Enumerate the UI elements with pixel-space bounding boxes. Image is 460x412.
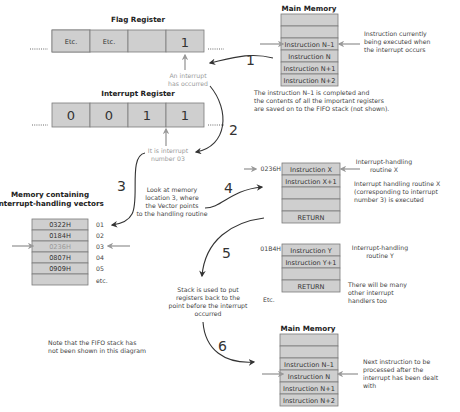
vector-memory-title-1: Memory containing xyxy=(11,190,89,199)
vec-index-5: etc. xyxy=(96,277,108,284)
routine-y: 01B4H Instruction Y Instruction Y+1 RETU… xyxy=(260,244,408,304)
flag-cell-2-box xyxy=(128,30,166,52)
fifo-note-1: Note that the FIFO stack has xyxy=(48,339,136,346)
main-memory-top: Main Memory Instruction N–1 Instruction … xyxy=(253,4,430,112)
step1-arrow xyxy=(210,55,273,63)
int-cell-1: 0 xyxy=(105,108,113,123)
int-annotation-1: It is interrupt xyxy=(148,147,189,155)
flag-register-title: Flag Register xyxy=(111,15,165,24)
routine-x-label-2: routine X xyxy=(370,166,399,173)
routine-x: 0236H Instruction X Instruction X+1 RETU… xyxy=(244,158,441,223)
vec-cell-0: 0322H xyxy=(49,221,71,229)
rx-cell-0: Instruction X xyxy=(290,166,332,174)
flag-register: Flag Register Etc. Etc. 1 An interrupt h… xyxy=(30,15,224,87)
vec-index-2: 03 xyxy=(96,243,104,250)
routine-x-annotation-2: (corresponding to interrupt xyxy=(354,188,438,196)
main-memory-bottom-title: Main Memory xyxy=(281,324,336,333)
routine-etc-label: Etc. xyxy=(263,296,275,303)
vec-cell-4: 0909H xyxy=(49,265,71,273)
int-cell-3: 1 xyxy=(181,108,189,123)
stack-note-3: point before the interrupt xyxy=(169,302,248,310)
mm-bot-cell-5: Instruction N+2 xyxy=(283,397,335,405)
step-6-number: 6 xyxy=(218,338,227,354)
step4-arrow xyxy=(205,187,262,208)
step5-arrow xyxy=(202,218,264,276)
mm-top-annotation-3: the interrupt occurs xyxy=(364,46,426,54)
mm-top-cell-5: Instruction N+2 xyxy=(283,77,335,85)
vector-annotation-2: location 3, where xyxy=(145,194,199,201)
vec-index-1: 02 xyxy=(96,232,104,239)
int-cell-2: 1 xyxy=(143,108,151,123)
routine-y-label-1: Interrupt-handling xyxy=(352,244,408,252)
mm-top-cell-2: Instruction N–1 xyxy=(285,41,335,49)
stack-note-1: Stack is used to put xyxy=(177,286,239,294)
interrupt-diagram: Flag Register Etc. Etc. 1 An interrupt h… xyxy=(0,0,460,412)
ry-cell-2-box xyxy=(282,268,340,280)
int-annotation-2: number 03 xyxy=(151,155,185,162)
mm-top-cell-3: Instruction N xyxy=(288,53,330,61)
routine-y-label-2: routine Y xyxy=(366,252,394,259)
routine-x-annotation-3: number 3) is executed xyxy=(354,196,424,203)
routine-x-annotation-1: Interrupt handling routine X xyxy=(354,180,441,188)
routine-x-address: 0236H xyxy=(261,165,282,172)
rx-cell-3-box xyxy=(282,199,340,211)
stack-note: Stack is used to put registers back to t… xyxy=(169,286,248,317)
routine-y-annotation-1: There will be many xyxy=(347,281,407,289)
mm-bot-annotation-1: Next instruction to be xyxy=(363,358,430,365)
vec-index-4: 05 xyxy=(96,265,104,272)
mm-top-annotation-2: being executed when xyxy=(364,38,430,46)
mm-bot-cell-1-box xyxy=(280,346,338,358)
flag-cell-1: Etc. xyxy=(103,38,115,46)
mm-top-cell-0-box xyxy=(281,14,338,26)
mm-bot-cell-3: Instruction N xyxy=(288,373,330,381)
mm-bot-annotation-4: with xyxy=(363,382,376,389)
vec-cell-3: 0807H xyxy=(49,254,71,262)
stack-note-4: occurred xyxy=(194,310,221,317)
step-4-number: 4 xyxy=(224,180,233,196)
flag-cell-0: Etc. xyxy=(65,38,77,46)
mm-bot-cell-4: Instruction N+1 xyxy=(283,385,335,393)
rx-cell-2-box xyxy=(282,187,340,199)
step-1-number: 1 xyxy=(246,52,255,68)
mm-top-cell-1-box xyxy=(281,26,338,38)
mm-bot-cell-2: Instruction N–1 xyxy=(284,361,334,369)
vec-index-0: 01 xyxy=(96,221,104,228)
main-memory-top-title: Main Memory xyxy=(282,4,337,13)
mm-bot-cell-0-box xyxy=(280,334,338,346)
step-3-number: 3 xyxy=(117,178,126,194)
step-2-number: 2 xyxy=(229,122,238,138)
stack-note-2: registers back to the xyxy=(176,294,240,302)
step6-arrow xyxy=(203,322,254,362)
interrupt-register-title: Interrupt Register xyxy=(101,89,175,98)
routine-y-annotation-3: handlers too xyxy=(348,297,387,304)
vec-cell-5-box xyxy=(32,274,88,285)
vector-memory-title-2: interrupt-handling vectors xyxy=(0,199,104,208)
main-memory-bottom: Main Memory Instruction N–1 Instruction … xyxy=(262,324,439,406)
rx-cell-4: RETURN xyxy=(297,214,324,222)
routine-y-annotation-2: other interrupt xyxy=(348,289,394,297)
flag-annotation-1: An interrupt xyxy=(169,72,207,80)
routine-x-label-1: Interrupt-handling xyxy=(356,158,412,166)
mm-top-cell-4: Instruction N+1 xyxy=(283,65,335,73)
vec-cell-2: 0236H xyxy=(49,243,71,251)
ry-cell-0: Instruction Y xyxy=(290,247,332,255)
mm-top-caption-2: the contents of all the important regist… xyxy=(254,97,384,105)
fifo-note: Note that the FIFO stack has not been sh… xyxy=(48,339,146,355)
ry-cell-3: RETURN xyxy=(297,283,324,291)
mm-bot-annotation-2: processed after the xyxy=(363,366,423,374)
rx-cell-1: Instruction X+1 xyxy=(285,178,337,186)
step-5-number: 5 xyxy=(222,245,231,261)
mm-bot-annotation-3: interrupt has been dealt xyxy=(363,374,439,382)
flag-cell-3: 1 xyxy=(181,35,189,50)
int-cell-0: 0 xyxy=(67,108,75,123)
routine-y-address: 01B4H xyxy=(260,245,281,252)
vector-memory: Memory containing interrupt-handling vec… xyxy=(0,186,208,285)
vec-index-3: 04 xyxy=(96,254,104,261)
vector-annotation-1: Look at memory xyxy=(147,186,198,194)
ry-cell-1: Instruction Y+1 xyxy=(285,259,336,267)
vector-annotation-3: the Vector points xyxy=(146,202,199,210)
vector-annotation-4: to the handling routine xyxy=(136,210,207,218)
flag-annotation-2: has occurred xyxy=(168,80,208,87)
mm-top-caption-3: are saved on to the FIFO stack (not show… xyxy=(254,105,389,112)
interrupt-register: Interrupt Register 0 0 1 1 It is interru… xyxy=(32,89,224,162)
